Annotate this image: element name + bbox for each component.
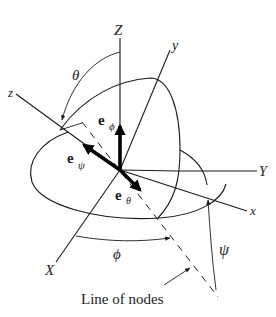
svg-text:e: e <box>67 150 74 166</box>
label-y: y <box>170 38 179 53</box>
svg-text:e: e <box>98 112 105 128</box>
label-psi: ψ <box>219 241 230 259</box>
y-axis <box>120 50 170 170</box>
tilted-plane-ellipse <box>60 78 207 218</box>
label-Y: Y <box>259 164 269 179</box>
label-Z: Z <box>114 22 123 38</box>
label-phi: ϕ <box>113 246 121 262</box>
label-e-theta: e θ <box>115 187 131 206</box>
phi-arc <box>76 236 170 241</box>
label-z: z <box>7 85 13 100</box>
svg-text:e: e <box>115 187 122 203</box>
euler-angles-figure: Z y z Y x X θ ϕ ψ e ϕ e ψ e θ Line of no… <box>0 0 276 317</box>
caption-line-of-nodes: Line of nodes <box>81 291 164 307</box>
label-x: x <box>249 203 256 218</box>
e-psi-vector <box>84 145 120 170</box>
svg-text:ψ: ψ <box>78 159 85 171</box>
caption-leader-arrow <box>164 268 190 285</box>
label-e-phi: e ϕ <box>98 112 115 132</box>
label-X: X <box>44 262 55 278</box>
psi-arc <box>208 200 216 290</box>
label-theta: θ <box>72 67 80 83</box>
label-e-psi: e ψ <box>67 150 85 171</box>
X-axis <box>56 170 120 262</box>
svg-text:ϕ: ϕ <box>109 120 115 132</box>
theta-arc <box>62 52 120 120</box>
svg-text:θ: θ <box>126 195 131 206</box>
